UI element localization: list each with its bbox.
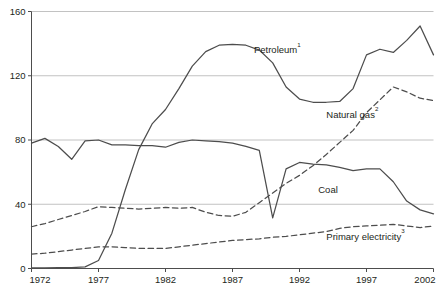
series-label-natural-gas: Natural gas2 [326, 105, 379, 120]
x-axis-label-1992: 1992 [289, 274, 310, 285]
y-axis-label-40: 40 [15, 199, 26, 210]
series-label-coal: Coal [318, 184, 338, 195]
y-axis-label-80: 80 [15, 134, 26, 145]
x-axis-label-1987: 1987 [222, 274, 243, 285]
y-axis-label-160: 160 [10, 6, 26, 17]
chart-canvas: 04080120160 1972197719821987199219972002… [0, 0, 439, 290]
y-axis-label-0: 0 [20, 263, 25, 274]
y-axis-tick-labels: 04080120160 [10, 6, 26, 274]
x-axis-label-1997: 1997 [356, 274, 377, 285]
series-label-petroleum: Petroleum1 [254, 41, 301, 56]
y-axis-label-120: 120 [10, 70, 26, 81]
line-chart-energy-consumption: 04080120160 1972197719821987199219972002… [0, 0, 439, 290]
x-axis-label-1982: 1982 [155, 274, 176, 285]
x-axis-label-1977: 1977 [88, 274, 109, 285]
x-axis-label-1972: 1972 [30, 274, 51, 285]
x-axis-label-2002: 2002 [414, 274, 435, 285]
series-line-coal [32, 138, 434, 218]
x-axis-tick-labels: 1972197719821987199219972002 [30, 274, 436, 285]
